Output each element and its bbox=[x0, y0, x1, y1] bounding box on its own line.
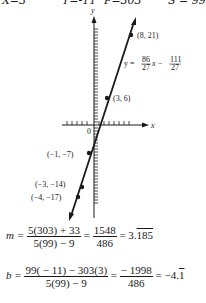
data-point bbox=[129, 33, 133, 37]
slope-equation: m = 5(303) + 33 5(99) − 9 = 1548 486 = 3… bbox=[6, 224, 206, 249]
data-point bbox=[87, 151, 91, 155]
data-point bbox=[105, 96, 109, 100]
slope-repeating-digits: 185 bbox=[137, 229, 154, 241]
point-label: (3, 6) bbox=[113, 94, 131, 103]
intercept-lhs: b = bbox=[6, 269, 22, 281]
intercept-fraction-simplified: − 1998 486 bbox=[120, 264, 153, 289]
x-axis-label: x bbox=[150, 121, 155, 130]
data-point bbox=[80, 185, 84, 189]
svg-text:27: 27 bbox=[142, 63, 150, 72]
point-label: (−3, −14) bbox=[35, 180, 66, 189]
point-label: (−1, −7) bbox=[47, 150, 74, 159]
scatter-plot: y x bbox=[0, 0, 206, 225]
regression-equation-label: y = 86 27 x − 111 27 bbox=[124, 55, 181, 72]
intercept-fraction: 99( − 11) − 303(3) 5(99) − 9 bbox=[24, 264, 108, 289]
svg-text:x −: x − bbox=[151, 59, 163, 68]
origin-label: 0 bbox=[87, 127, 91, 136]
slope-lhs: m = bbox=[6, 229, 24, 241]
y-axis-label: y bbox=[90, 6, 95, 15]
svg-text:y =: y = bbox=[124, 59, 135, 68]
svg-text:27: 27 bbox=[171, 63, 179, 72]
point-label: (8, 21) bbox=[137, 31, 159, 40]
x-axis-arrow-icon bbox=[142, 123, 149, 128]
y-axis-arrow-icon bbox=[92, 16, 97, 23]
slope-fraction-simplified: 1548 486 bbox=[93, 224, 117, 249]
intercept-repeating-digits: 1 bbox=[179, 269, 185, 281]
regression-line-arrow-bottom-icon bbox=[69, 212, 74, 221]
slope-fraction: 5(303) + 33 5(99) − 9 bbox=[27, 224, 81, 249]
regression-line-arrow-top-icon bbox=[131, 17, 136, 25]
intercept-equation: b = 99( − 11) − 303(3) 5(99) − 9 = − 199… bbox=[6, 264, 206, 289]
point-label: (−4, −17) bbox=[31, 193, 62, 202]
y-axis-ticks bbox=[94, 29, 98, 203]
data-point bbox=[76, 195, 80, 199]
